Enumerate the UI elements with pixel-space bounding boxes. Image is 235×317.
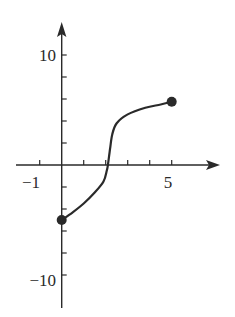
y-tick-label-10: 10 <box>39 46 56 65</box>
curve <box>57 97 177 225</box>
function-curve <box>62 102 172 220</box>
x-ticks <box>40 160 172 165</box>
x-axis: −1 5 <box>16 160 220 192</box>
function-graph: −1 5 10 −10 <box>0 0 235 317</box>
right-endpoint-dot <box>167 97 177 107</box>
x-tick-label-5: 5 <box>164 173 173 192</box>
x-tick-label-neg1: −1 <box>22 173 40 192</box>
y-tick-label-neg10: −10 <box>29 271 56 290</box>
left-endpoint-dot <box>57 215 67 225</box>
